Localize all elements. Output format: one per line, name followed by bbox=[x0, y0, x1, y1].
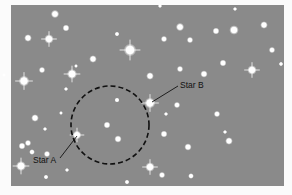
star bbox=[146, 72, 154, 80]
star bbox=[164, 112, 168, 116]
star bbox=[233, 7, 237, 11]
star bbox=[214, 111, 220, 117]
bright-star bbox=[64, 66, 81, 83]
star-a-label: Star A bbox=[33, 155, 56, 165]
bright-star bbox=[120, 40, 141, 61]
star bbox=[64, 87, 68, 91]
star bbox=[114, 97, 119, 102]
bright-star bbox=[244, 62, 260, 78]
star bbox=[158, 4, 162, 8]
star bbox=[115, 32, 120, 37]
bright-star bbox=[141, 94, 159, 112]
star bbox=[223, 130, 227, 134]
star bbox=[160, 130, 167, 137]
star bbox=[184, 143, 191, 150]
labels-group: Star AStar B bbox=[33, 80, 204, 165]
bright-star bbox=[13, 158, 30, 175]
star bbox=[219, 59, 226, 66]
bright-star bbox=[41, 31, 57, 47]
star bbox=[39, 67, 45, 73]
star bbox=[43, 127, 47, 131]
star bbox=[229, 25, 239, 35]
star bbox=[187, 37, 193, 43]
star bbox=[103, 121, 110, 128]
bright-star bbox=[142, 159, 158, 175]
star bbox=[159, 172, 165, 178]
star bbox=[161, 36, 167, 42]
star bbox=[74, 64, 78, 68]
star bbox=[51, 10, 59, 18]
star-a-leader-line bbox=[60, 136, 77, 158]
star bbox=[44, 175, 49, 180]
star-field-diagram: Star AStar B bbox=[0, 0, 292, 195]
star bbox=[177, 66, 183, 72]
star bbox=[188, 173, 194, 179]
star bbox=[2, 73, 6, 77]
star bbox=[59, 111, 63, 115]
star bbox=[89, 55, 97, 63]
star bbox=[200, 70, 207, 77]
star bbox=[176, 23, 184, 31]
star-b-label: Star B bbox=[180, 80, 204, 90]
star bbox=[114, 135, 121, 142]
star bbox=[269, 47, 275, 53]
star bbox=[260, 21, 268, 29]
star bbox=[65, 168, 69, 172]
star bbox=[212, 27, 219, 34]
star bbox=[25, 140, 31, 146]
bright-star bbox=[15, 72, 33, 90]
star-b-leader-line bbox=[152, 86, 178, 102]
star bbox=[62, 24, 69, 31]
star bbox=[225, 137, 233, 145]
star bbox=[174, 102, 180, 108]
star bbox=[31, 114, 39, 122]
star bbox=[18, 142, 25, 149]
star bbox=[279, 62, 283, 66]
star bbox=[125, 180, 130, 185]
star bbox=[24, 34, 32, 42]
